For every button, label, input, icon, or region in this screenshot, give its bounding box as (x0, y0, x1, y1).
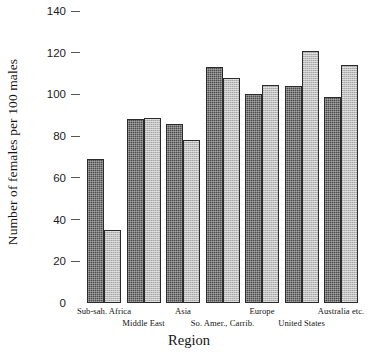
bar-group (285, 8, 319, 303)
y-axis-tick-label: 40 (53, 214, 66, 226)
bar-chart: Number of females per 100 males 14012010… (0, 0, 378, 363)
y-axis-title: Number of females per 100 males (0, 0, 26, 303)
x-axis-title: Region (0, 332, 378, 349)
x-axis-ticks: Sub-sah. AfricaMiddle EastAsiaSo. Amer.,… (0, 304, 378, 334)
bar (302, 51, 319, 303)
y-axis-tick-mark (71, 94, 80, 95)
bar (341, 65, 358, 303)
bar (144, 118, 161, 303)
y-axis-tick-label: 60 (53, 172, 66, 184)
x-axis-tick-label: Europe (218, 306, 306, 316)
bar-group (206, 8, 240, 303)
bar (262, 85, 279, 303)
x-axis-tick-label: So. Amer., Carrib. (179, 318, 267, 328)
y-axis-tick-label: 20 (53, 255, 66, 267)
bar (206, 67, 223, 303)
y-axis-tick-label: 80 (53, 130, 66, 142)
x-axis-tick-label: Australia etc. (297, 306, 378, 316)
x-axis-tick-label: Middle East (100, 318, 188, 328)
bar-group (127, 8, 161, 303)
y-axis-tick-label: 100 (47, 88, 66, 100)
bar-group (166, 8, 200, 303)
bar (324, 97, 341, 303)
y-axis-title-text: Number of females per 100 males (5, 58, 21, 244)
bar (285, 86, 302, 303)
bar (127, 119, 144, 303)
y-axis-tick-mark (71, 219, 80, 220)
x-axis-tick-label: Asia (139, 306, 227, 316)
y-axis-tick: 60 (26, 172, 82, 184)
bar (245, 94, 262, 303)
x-axis-tick-label: Sub-sah. Africa (60, 306, 148, 316)
bar-group (87, 8, 121, 303)
bar (166, 124, 183, 303)
plot-area (84, 8, 372, 303)
bar (223, 78, 240, 303)
bar (87, 159, 104, 303)
bar (183, 140, 200, 303)
y-axis-tick-mark (71, 261, 80, 262)
y-axis-tick: 120 (26, 47, 82, 59)
y-axis-tick-mark (71, 11, 80, 12)
y-axis-tick-label: 140 (47, 5, 66, 17)
bar-group (245, 8, 279, 303)
y-axis-tick-mark (71, 136, 80, 137)
y-axis-ticks: 140120100806040200 (26, 0, 82, 320)
y-axis-tick: 20 (26, 255, 82, 267)
x-axis-tick-label: United States (258, 318, 346, 328)
y-axis-tick: 80 (26, 130, 82, 142)
y-axis-tick-mark (71, 177, 80, 178)
y-axis-tick-label: 120 (47, 47, 66, 59)
y-axis-tick-mark (71, 52, 80, 53)
bar (104, 230, 121, 303)
bar-group (324, 8, 358, 303)
y-axis-tick: 140 (26, 5, 82, 17)
y-axis-tick: 40 (26, 214, 82, 226)
y-axis-tick: 100 (26, 88, 82, 100)
